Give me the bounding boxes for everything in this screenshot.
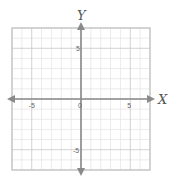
x-tick-label: 5 [127, 102, 131, 109]
y-axis-arrow-down-icon [77, 168, 85, 176]
y-axis-arrow-up-icon [77, 22, 85, 30]
x-axis-title: X [157, 92, 168, 107]
axes [7, 22, 155, 176]
x-axis-arrow-left-icon [7, 95, 15, 103]
y-tick-label: -5 [73, 147, 79, 154]
x-axis-arrow-right-icon [147, 95, 155, 103]
y-tick-label: 5 [76, 45, 80, 52]
coordinate-plane: -5055-5 X Y [0, 0, 175, 180]
x-tick-label: 0 [78, 102, 82, 109]
x-tick-label: -5 [29, 102, 35, 109]
y-axis-title: Y [77, 8, 87, 23]
